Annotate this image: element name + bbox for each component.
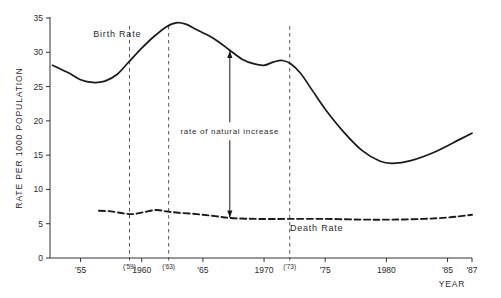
y-axis-tick-label: 10 — [34, 184, 44, 194]
y-axis-tick-label: 20 — [34, 116, 44, 126]
y-axis-title: RATE PER 1000 POPULATION — [14, 67, 24, 208]
y-axis-tick-label: 30 — [34, 47, 44, 57]
annotation-arrowhead-down — [227, 211, 232, 218]
series-label-death-rate: Death Rate — [290, 223, 344, 233]
reference-line-label: ('73) — [283, 263, 296, 271]
reference-line-label: ('63) — [162, 263, 175, 271]
reference-line-label: ('59) — [123, 263, 136, 271]
series-line-death-rate — [99, 210, 472, 220]
series-line-birth-rate — [52, 23, 472, 164]
x-axis-title: YEAR — [439, 279, 466, 289]
vital-rates-line-chart: 05101520253035'551960'651970'751980'85'8… — [0, 0, 501, 298]
x-axis-tick-label: 1970 — [255, 265, 274, 275]
x-axis-tick-label: 1980 — [377, 265, 396, 275]
natural-increase-annotation: rate of natural increase — [180, 51, 279, 218]
y-axis-tick-label: 0 — [38, 253, 43, 263]
annotation-text: rate of natural increase — [180, 127, 279, 136]
y-axis-tick-label: 25 — [34, 82, 44, 92]
x-axis-tick-label: '87 — [466, 265, 477, 275]
y-axis-tick-label: 15 — [34, 150, 44, 160]
x-axis-tick-label: '65 — [197, 265, 208, 275]
x-axis-tick-label: '75 — [320, 265, 331, 275]
x-axis-tick-label: '55 — [75, 265, 86, 275]
series-label-birth-rate: Birth Rate — [93, 29, 141, 39]
y-axis-tick-label: 35 — [34, 13, 44, 23]
y-axis-tick-label: 5 — [38, 219, 43, 229]
chart-figure: 05101520253035'551960'651970'751980'85'8… — [0, 0, 501, 298]
x-axis-tick-label: '85 — [442, 265, 453, 275]
